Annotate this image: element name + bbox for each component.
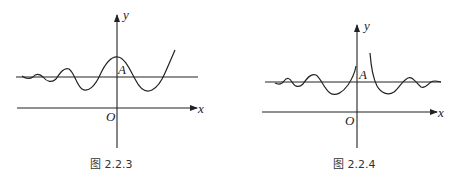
point-a-label: A: [117, 62, 126, 77]
point-a-label: A: [358, 67, 367, 82]
origin-label: O: [106, 109, 116, 124]
origin-label: O: [345, 113, 355, 128]
oscillating-curve: [22, 50, 175, 91]
y-axis-label: y: [362, 18, 370, 33]
figure-caption: 图 2.2.4: [333, 158, 376, 171]
oscillating-curve-right: [370, 53, 441, 94]
y-axis-label: y: [121, 7, 129, 22]
figure-2-2-3: y x O A 图 2.2.3: [16, 7, 204, 171]
x-axis-label: x: [197, 101, 204, 116]
figure-caption: 图 2.2.3: [90, 158, 133, 171]
figure-2-2-4: y x O A 图 2.2.4: [262, 18, 444, 171]
x-axis-label: x: [437, 105, 444, 120]
oscillating-curve-left: [275, 66, 356, 94]
figure-canvas: y x O A 图 2.2.3 y x O A 图 2.2.4: [0, 0, 460, 179]
